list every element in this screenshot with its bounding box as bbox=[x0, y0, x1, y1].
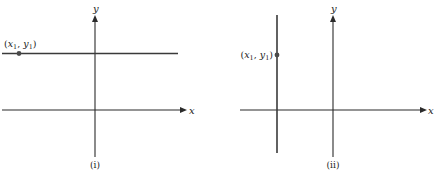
point-label: (x1, y1) bbox=[241, 49, 274, 62]
point-label-close: ) bbox=[33, 38, 37, 49]
diagram-canvas: x y (x1, y1) (i) x y (x1, y1) (ii) bbox=[0, 0, 434, 177]
x-axis-arrow-icon bbox=[420, 107, 427, 113]
panel-caption: (i) bbox=[90, 160, 100, 170]
x-axis-label: x bbox=[428, 105, 434, 116]
y-axis-arrow-icon bbox=[330, 15, 336, 22]
y-axis-label: y bbox=[330, 3, 337, 14]
panel-caption: (ii) bbox=[327, 160, 340, 170]
y-axis-label: y bbox=[92, 3, 99, 14]
point-label-close: ) bbox=[269, 49, 273, 60]
panel-ii: x y (x1, y1) (ii) bbox=[240, 3, 434, 170]
point-label: (x1, y1) bbox=[4, 38, 37, 51]
point-x1-y1 bbox=[17, 51, 22, 56]
point-x1-y1 bbox=[275, 53, 280, 58]
panel-i: x y (x1, y1) (i) bbox=[2, 3, 195, 170]
x-axis-label: x bbox=[189, 105, 195, 116]
y-axis-arrow-icon bbox=[92, 15, 98, 22]
x-axis-arrow-icon bbox=[180, 107, 187, 113]
